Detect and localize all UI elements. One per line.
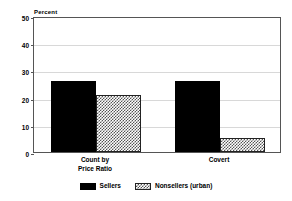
x-axis-label-line: Count by [78,156,112,165]
y-axis-tick-label: 20 [22,96,29,103]
y-axis-tick-mark [31,154,34,155]
x-axis-labels: Count byPrice RatioCovert [33,156,281,180]
x-axis-group-label: Count byPrice Ratio [78,156,112,173]
legend-item: Sellers [80,182,121,190]
plot-area: 01020304050 [33,17,281,153]
x-axis-group-label: Covert [209,156,230,165]
y-axis-tick-label: 40 [22,42,29,49]
legend-swatch [80,183,96,190]
x-axis-label-line: Price Ratio [78,165,112,174]
bar-sellers [175,81,220,152]
y-axis-tick-label: 0 [25,151,29,158]
bar-sellers [51,81,96,152]
y-axis-unit-label: Percent [34,8,57,16]
legend-label: Nonsellers (urban) [155,182,212,190]
legend-item: Nonsellers (urban) [135,182,212,190]
bar-nonsellers-urban [220,138,265,152]
y-axis-tick-label: 50 [22,15,29,22]
legend-label: Sellers [100,182,121,190]
bar-chart: Percent 01020304050 Count byPrice RatioC… [0,0,292,201]
legend-swatch [135,183,151,190]
x-axis-label-line: Covert [209,156,230,165]
y-axis-tick-label: 10 [22,123,29,130]
chart-legend: SellersNonsellers (urban) [0,182,292,190]
bars-layer [34,18,280,152]
bar-nonsellers-urban [96,95,141,152]
y-axis-tick-label: 30 [22,69,29,76]
